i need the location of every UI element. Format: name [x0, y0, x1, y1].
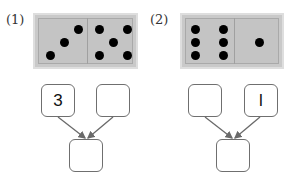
arrows [0, 0, 287, 187]
arrow-icon [58, 117, 85, 138]
arrow-icon [235, 117, 260, 138]
arrow-icon [205, 117, 232, 138]
arrow-icon [88, 117, 113, 138]
